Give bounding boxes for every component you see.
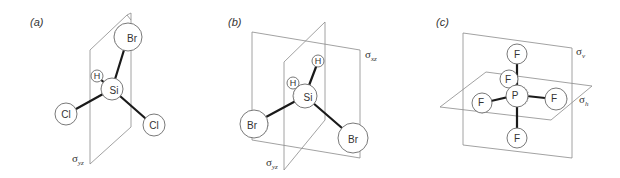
- svg-text:Br: Br: [348, 134, 359, 145]
- sigma-xz-label: σxz: [365, 48, 377, 63]
- symmetry-elements-figure: (a) Br Si H Cl Cl: [0, 0, 620, 178]
- svg-text:H: H: [94, 71, 101, 81]
- svg-text:Si: Si: [110, 85, 119, 96]
- panel-a: (a) Br Si H Cl Cl: [30, 13, 165, 167]
- atom-cl-right: Cl: [143, 114, 165, 136]
- panel-a-label: (a): [30, 16, 44, 28]
- svg-text:P: P: [512, 90, 519, 101]
- atom-h: H: [91, 70, 103, 82]
- svg-text:Br: Br: [247, 120, 258, 131]
- svg-text:Cl: Cl: [61, 109, 70, 120]
- svg-text:F: F: [514, 133, 520, 144]
- atom-f-bottom: F: [507, 128, 527, 148]
- atom-cl-left: Cl: [55, 103, 77, 125]
- atom-si: Si: [101, 78, 123, 100]
- svg-text:Br: Br: [127, 33, 138, 44]
- svg-text:H: H: [315, 56, 322, 66]
- atom-f-right: F: [545, 88, 567, 110]
- sigma-yz-label: σyz: [266, 156, 278, 171]
- atom-f-top: F: [507, 44, 527, 64]
- atom-p: P: [506, 85, 529, 107]
- sigma-yz-label: σyz: [72, 152, 84, 167]
- sigma-h-label: σh: [579, 93, 589, 108]
- svg-text:F: F: [514, 49, 520, 60]
- svg-text:F: F: [551, 93, 557, 104]
- svg-text:F: F: [505, 74, 511, 85]
- svg-text:F: F: [478, 97, 484, 108]
- svg-text:H: H: [290, 78, 297, 88]
- svg-text:Si: Si: [304, 92, 313, 103]
- atom-h-left: H: [287, 77, 299, 89]
- panel-c-label: (c): [436, 16, 449, 28]
- atom-br-left: Br: [240, 110, 268, 138]
- atom-f-left: F: [472, 93, 492, 113]
- panel-c: (c) F F P F: [436, 16, 592, 158]
- svg-text:Cl: Cl: [149, 120, 158, 131]
- atom-h-top: H: [312, 55, 324, 67]
- atom-br: Br: [114, 23, 142, 51]
- atom-br-right: Br: [338, 123, 368, 153]
- panel-b-label: (b): [228, 16, 242, 28]
- panel-b: (b) H Si H Br Br: [228, 16, 377, 171]
- sigma-v-label: σv: [576, 45, 586, 60]
